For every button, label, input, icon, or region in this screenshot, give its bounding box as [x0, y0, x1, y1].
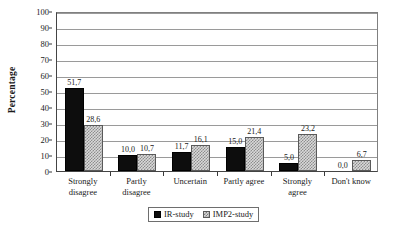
y-axis-tick-label: 30 [41, 120, 50, 129]
bar-group: 5,023,2 [272, 13, 326, 171]
bar-group: 51,728,6 [57, 13, 111, 171]
bar-value-label: 16,1 [194, 136, 208, 144]
x-axis-category-line: Uncertain [163, 176, 217, 187]
x-axis-category-line: Partly [110, 176, 164, 187]
x-axis-category-label: Uncertain [163, 176, 217, 187]
x-axis-category-line: Partly agree [217, 176, 271, 187]
x-axis-category-line: disagree [110, 187, 164, 198]
x-axis-category-line: Strongly [271, 176, 325, 187]
y-axis-tick-label: 40 [41, 104, 50, 113]
y-axis-tick-label: 60 [41, 72, 50, 81]
y-axis-tick-label: 80 [41, 40, 50, 49]
bar-value-label: 10,0 [121, 146, 135, 154]
y-axis-tickmark [49, 140, 52, 141]
x-axis-category-line: Strongly [56, 176, 110, 187]
legend-entry: IMP2-study [203, 210, 254, 219]
bar-value-label: 5,0 [284, 154, 294, 162]
y-axis-tickmark [49, 44, 52, 45]
bar-value-label: 51,7 [67, 79, 81, 87]
x-axis-category-labels: StronglydisagreePartlydisagreeUncertainP… [56, 176, 378, 210]
bar-series-imp2 [137, 154, 156, 171]
y-axis-tick-label: 50 [41, 88, 50, 97]
bar-value-label: 15,0 [228, 138, 242, 146]
x-axis-category-label: Stronglyagree [271, 176, 325, 198]
y-axis-tick-labels: 0102030405060708090100 [22, 12, 52, 172]
y-axis-tick-label: 10 [41, 152, 50, 161]
y-axis-title: Percentage [2, 0, 22, 180]
bar-series-ir [172, 152, 191, 171]
y-axis-tick-label: 70 [41, 56, 50, 65]
bar-group: 0,06,7 [325, 13, 379, 171]
y-axis-tickmark [49, 76, 52, 77]
y-axis-tickmark [49, 60, 52, 61]
x-axis-category-label: Partly agree [217, 176, 271, 187]
bar-series-imp2 [245, 137, 264, 171]
bar-series-imp2 [191, 145, 210, 171]
legend-swatch-series-imp2 [203, 211, 210, 218]
plot-area: 51,728,610,010,711,716,115,021,45,023,20… [56, 12, 378, 172]
legend-swatch-series-ir [154, 211, 161, 218]
y-axis-tick-label: 100 [36, 8, 49, 17]
bar-value-label: 11,7 [175, 143, 189, 151]
bar-value-label: 28,6 [86, 116, 100, 124]
legend-label: IMP2-study [213, 210, 254, 219]
bar-value-label: 10,7 [140, 145, 154, 153]
y-axis-title-text: Percentage [7, 67, 17, 114]
x-axis-category-line: agree [271, 187, 325, 198]
y-axis-tickmark [49, 12, 52, 13]
bar-value-label: 23,2 [301, 125, 315, 133]
y-axis-tickmark [49, 92, 52, 93]
legend-entry: IR-study [154, 210, 194, 219]
legend-label: IR-study [164, 210, 194, 219]
bar-value-label: 21,4 [247, 128, 261, 136]
x-axis-category-label: Don't know [324, 176, 378, 187]
bar-group: 11,716,1 [164, 13, 218, 171]
y-axis-tickmark [49, 172, 52, 173]
x-axis-category-line: disagree [56, 187, 110, 198]
y-axis-tickmark [49, 124, 52, 125]
x-axis-category-line: Don't know [324, 176, 378, 187]
bar-series-ir [65, 88, 84, 171]
bar-series-ir [118, 155, 137, 171]
bar-group: 15,021,4 [218, 13, 272, 171]
bar-series-imp2 [298, 134, 317, 171]
y-axis-tickmark [49, 156, 52, 157]
bar-chart-figure: Percentage 0102030405060708090100 51,728… [0, 0, 397, 237]
bar-value-label: 6,7 [357, 151, 367, 159]
x-axis-category-label: Partlydisagree [110, 176, 164, 198]
chart-legend: IR-studyIMP2-study [148, 207, 259, 222]
bar-series-imp2 [84, 125, 103, 171]
x-axis-category-label: Stronglydisagree [56, 176, 110, 198]
bar-series-ir [279, 163, 298, 171]
bar-series-ir [226, 147, 245, 171]
y-axis-tick-label: 20 [41, 136, 50, 145]
y-axis-tick-label: 90 [41, 24, 50, 33]
bar-value-label: 0,0 [338, 162, 348, 170]
y-axis-tickmark [49, 108, 52, 109]
bars-layer: 51,728,610,010,711,716,115,021,45,023,20… [57, 13, 377, 171]
y-axis-tickmark [49, 28, 52, 29]
bar-series-imp2 [352, 160, 371, 171]
bar-group: 10,010,7 [111, 13, 165, 171]
